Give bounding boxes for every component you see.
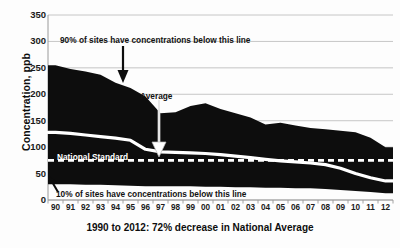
chart-caption: 1990 to 2012: 72% decrease in National A… (0, 222, 400, 233)
x-tick-11: 11 (363, 201, 378, 215)
x-tick-05: 05 (273, 201, 288, 215)
pct90-arrow-icon (118, 46, 129, 83)
x-tick-01: 01 (213, 201, 228, 215)
x-tick-91: 91 (63, 201, 78, 215)
x-tick-95: 95 (123, 201, 138, 215)
x-tick-90: 90 (48, 201, 63, 215)
x-tick-12: 12 (378, 201, 393, 215)
x-tick-06: 06 (288, 201, 303, 215)
x-tick-09: 09 (333, 201, 348, 215)
x-tick-10: 10 (348, 201, 363, 215)
x-tick-99: 99 (183, 201, 198, 215)
x-tick-98: 98 (168, 201, 183, 215)
annotation-pct10-label: 10% of sites have concentrations below t… (56, 190, 246, 198)
x-axis-tick-labels: 9091929394959697989900010203040506070809… (48, 201, 393, 215)
annotation-average-label: Average (140, 92, 172, 100)
x-tick-03: 03 (243, 201, 258, 215)
annotation-national-standard-label: National Standard (57, 153, 128, 161)
x-tick-92: 92 (78, 201, 93, 215)
x-tick-93: 93 (93, 201, 108, 215)
percentile-band-area (48, 65, 393, 193)
x-tick-00: 00 (198, 201, 213, 215)
x-tick-97: 97 (153, 201, 168, 215)
x-tick-04: 04 (258, 201, 273, 215)
x-tick-94: 94 (108, 201, 123, 215)
x-tick-07: 07 (303, 201, 318, 215)
x-tick-08: 08 (318, 201, 333, 215)
x-tick-02: 02 (228, 201, 243, 215)
chart-figure: Concentration, ppb 350 300 250 200 150 1… (0, 0, 400, 248)
annotation-pct90-label: 90% of sites have concentrations below t… (60, 36, 250, 44)
x-tick-96: 96 (138, 201, 153, 215)
